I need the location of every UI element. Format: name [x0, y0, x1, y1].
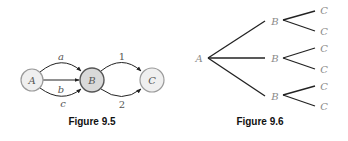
tree-b-2: B [270, 53, 278, 64]
node-a-label: A [27, 75, 35, 86]
figure-9-5: A B C a b c 1 2 Figure 9.5 [21, 51, 164, 127]
figures-canvas: A B C a b c 1 2 Figure 9.5 A B B B C C C… [0, 0, 348, 141]
tree-c-1: C [320, 5, 328, 16]
branch-a-b1 [208, 21, 265, 58]
tree-root-a: A [194, 53, 202, 64]
branch-b1-c2 [283, 20, 315, 31]
edge-1-label: 1 [119, 51, 125, 62]
branch-b1-c1 [283, 11, 315, 20]
figure-9-5-caption: Figure 9.5 [68, 116, 116, 127]
tree-c-4: C [320, 64, 328, 75]
tree-b-1: B [270, 16, 278, 27]
tree-c-5: C [320, 81, 328, 92]
figure-9-6 [208, 11, 315, 106]
edge-2 [101, 89, 141, 97]
branch-a-b3 [208, 58, 265, 96]
edge-2-label: 2 [119, 99, 125, 110]
branch-b2-c3 [283, 48, 315, 58]
branch-b3-c6 [283, 95, 315, 106]
edge-b-label: b [58, 84, 64, 95]
node-b-label: B [87, 75, 95, 86]
node-c-label: C [148, 75, 156, 86]
figure-9-6-caption: Figure 9.6 [236, 116, 284, 127]
tree-c-6: C [320, 101, 328, 112]
edge-a [40, 63, 81, 72]
edge-a-label: a [58, 51, 64, 62]
branch-b3-c5 [283, 86, 315, 95]
tree-c-3: C [320, 43, 328, 54]
tree-c-2: C [320, 26, 328, 37]
tree-b-3: B [270, 91, 278, 102]
branch-b2-c4 [283, 58, 315, 69]
edge-1 [101, 63, 141, 72]
edge-c-label: c [60, 98, 66, 109]
